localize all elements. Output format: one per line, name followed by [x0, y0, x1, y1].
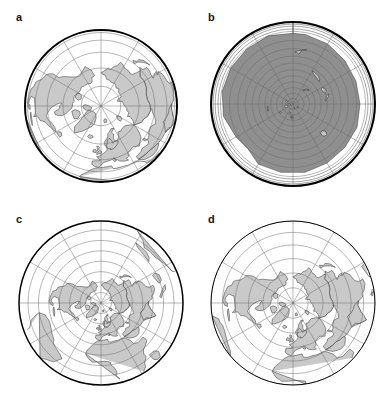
- globe-c: [11, 213, 191, 393]
- landmass-svalbard: [102, 310, 104, 312]
- panel-label-d: d: [208, 214, 215, 225]
- landmass-ireland: [93, 149, 96, 152]
- panel-d: [203, 213, 383, 393]
- panel-label-a: a: [16, 12, 22, 23]
- landmass-svalbard: [295, 313, 297, 316]
- globe-b: [203, 14, 383, 194]
- panel-a: [17, 22, 185, 190]
- landmass-svalbard: [104, 119, 107, 123]
- landmass-iceland: [289, 112, 291, 113]
- globe-a: [17, 22, 185, 190]
- map-projection-figure: a b c d: [0, 0, 391, 399]
- landmass-svalbard: [294, 107, 295, 108]
- panel-label-c: c: [16, 214, 22, 225]
- panel-c: [11, 213, 191, 393]
- landmass-ireland: [96, 327, 98, 329]
- panel-b: [203, 14, 383, 194]
- landmass-ireland: [291, 117, 292, 118]
- panel-label-b: b: [208, 12, 215, 23]
- globe-d: [203, 213, 383, 393]
